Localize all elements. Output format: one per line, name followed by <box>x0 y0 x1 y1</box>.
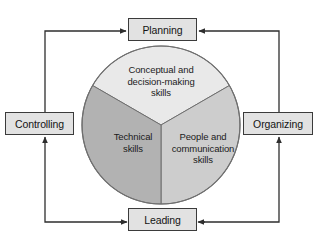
process-box-controlling-label: Controlling <box>15 118 64 130</box>
process-box-leading[interactable]: Leading <box>128 208 197 231</box>
diagram-canvas: Conceptual and decision-making skills Te… <box>0 0 325 250</box>
pie-label-people: People and communication skills <box>163 131 243 166</box>
process-box-planning-label: Planning <box>142 24 182 36</box>
process-box-controlling[interactable]: Controlling <box>5 112 74 135</box>
pie-label-technical: Technical skills <box>96 131 170 154</box>
process-box-organizing-label: Organizing <box>253 118 303 130</box>
process-box-planning[interactable]: Planning <box>128 18 197 41</box>
pie-label-conceptual: Conceptual and decision-making skills <box>106 64 216 99</box>
process-box-leading-label: Leading <box>144 214 181 226</box>
process-box-organizing[interactable]: Organizing <box>243 112 313 135</box>
